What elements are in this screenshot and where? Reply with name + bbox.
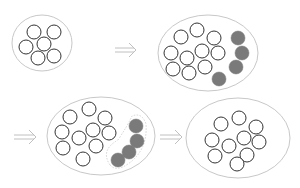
member-circle [47, 49, 61, 63]
member-circle [63, 110, 77, 124]
member-circle [56, 141, 70, 155]
member-circle [208, 149, 222, 163]
implies-arrow-icon [14, 130, 36, 144]
member-circle [180, 51, 194, 65]
implies-arrow-icon [160, 130, 182, 144]
newcomer-circle [212, 72, 226, 86]
member-circle [82, 102, 96, 116]
diagram-canvas [0, 0, 300, 188]
newcomer-circle [111, 153, 125, 167]
member-circle [252, 135, 266, 149]
member-circle [86, 123, 100, 137]
member-circle [27, 25, 41, 39]
member-circle [230, 157, 244, 171]
initial-group [12, 15, 72, 71]
member-circle [198, 60, 212, 74]
member-circle [214, 117, 228, 131]
member-circle [47, 25, 61, 39]
implies-arrow-icon [115, 43, 136, 57]
member-circle [237, 131, 251, 145]
newcomer-circle [229, 60, 243, 74]
newcomer-circle [231, 31, 245, 45]
newcomer-circle [129, 119, 143, 133]
member-circle [76, 152, 90, 166]
member-circle [249, 120, 263, 134]
member-circle [98, 111, 112, 125]
member-circle [19, 40, 33, 54]
member-circle [190, 23, 204, 37]
group-with-newcomers [158, 15, 258, 91]
member-circle [166, 62, 180, 76]
member-circle [195, 44, 209, 58]
member-circle [232, 111, 246, 125]
member-circle [222, 139, 236, 153]
member-circle [37, 37, 51, 51]
member-circle [174, 30, 188, 44]
member-circle [182, 66, 196, 80]
member-circle [72, 131, 86, 145]
member-circle [207, 31, 221, 45]
group-with-subgroup [47, 97, 155, 175]
member-circle [102, 126, 116, 140]
member-circle [89, 139, 103, 153]
member-circle [211, 46, 225, 60]
final-group [186, 98, 290, 178]
newcomer-circle [235, 46, 249, 60]
member-circle [164, 46, 178, 60]
member-circle [55, 125, 69, 139]
member-circle [31, 51, 45, 65]
member-circle [205, 133, 219, 147]
